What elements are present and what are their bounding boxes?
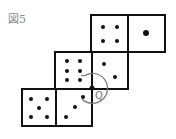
die-net-diagram: Q [0,0,176,139]
face-six-square [55,52,92,89]
point-q-marker [90,86,95,91]
pips-three [64,95,85,119]
pips-four [101,25,119,43]
pips-five [29,97,49,119]
face-two-square [92,52,128,89]
pips-two [102,62,117,79]
pips-six [65,59,82,82]
point-q-label: Q [95,90,103,101]
pips-one [143,30,149,36]
face-four-square [91,15,128,52]
rotation-arrow-icon [81,75,84,76]
